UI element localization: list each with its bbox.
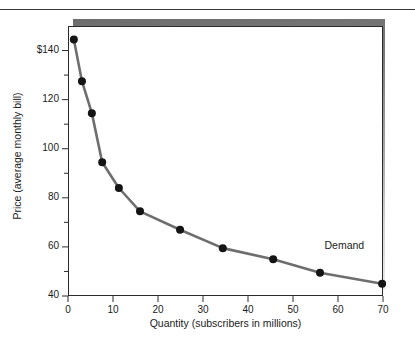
y-tick-label: $140 [37, 44, 59, 55]
x-tick-label: 0 [56, 304, 80, 315]
x-tick-label: 60 [326, 304, 350, 315]
data-point-marker [98, 158, 106, 166]
demand-curve-annotation: Demand [325, 239, 365, 251]
y-tick-label: 60 [48, 240, 59, 251]
chart-canvas [0, 0, 415, 339]
demand-curve-figure: Price (average monthly bill) Quantity (s… [0, 0, 415, 339]
data-point-marker [269, 255, 277, 263]
data-point-marker [316, 269, 324, 277]
y-axis-label: Price (average monthly bill) [11, 76, 23, 236]
y-axis-ticks [62, 51, 68, 296]
data-point-marker [378, 280, 386, 288]
y-tick-label: 100 [42, 142, 59, 153]
data-point-marker [176, 226, 184, 234]
y-tick-label: 40 [48, 289, 59, 300]
x-tick-label: 20 [146, 304, 170, 315]
x-tick-label: 40 [236, 304, 260, 315]
x-tick-label: 30 [191, 304, 215, 315]
data-point-marker [136, 207, 144, 215]
y-tick-label: 120 [42, 93, 59, 104]
data-point-marker [219, 244, 227, 252]
x-tick-label: 50 [281, 304, 305, 315]
data-point-marker [70, 36, 78, 44]
x-axis-label: Quantity (subscribers in millions) [68, 317, 383, 329]
x-axis-ticks [68, 296, 383, 302]
x-tick-label: 70 [371, 304, 395, 315]
data-point-marker [78, 77, 86, 85]
data-point-marker [115, 184, 123, 192]
data-point-marker [88, 109, 96, 117]
y-tick-label: 80 [48, 191, 59, 202]
x-tick-label: 10 [101, 304, 125, 315]
